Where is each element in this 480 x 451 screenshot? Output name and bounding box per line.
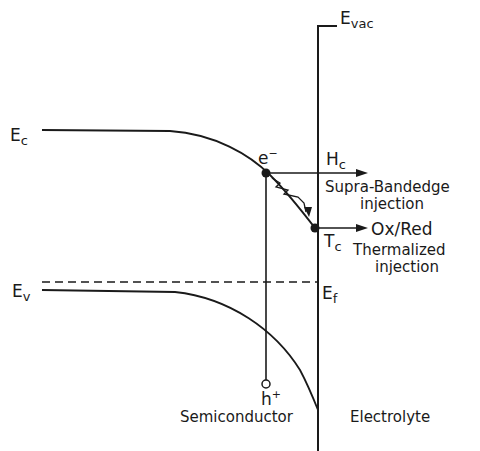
tc-label: Tc (324, 233, 342, 250)
evac-label: Evac (340, 10, 374, 27)
electron-label: e− (258, 150, 278, 167)
ev-label: Ev (12, 283, 30, 300)
hc-label: Hc (326, 151, 346, 168)
thermalized-injection-label: injection (375, 260, 439, 275)
thermalized-label: Thermalized (353, 243, 446, 258)
semiconductor-label: Semiconductor (180, 410, 293, 425)
hole-label: h+ (261, 391, 281, 408)
hole-circle (262, 380, 270, 388)
supra-injection-label: injection (360, 197, 424, 212)
supra-bandedge-label: Supra-Bandedge (325, 180, 450, 195)
ox-red-label: Ox/Red (371, 221, 432, 238)
ef-label: Ef (322, 285, 337, 302)
electrolyte-label: Electrolyte (350, 410, 430, 425)
arrowhead-icon (356, 169, 368, 177)
arrowhead-icon (356, 224, 368, 232)
ec-label: Ec (10, 127, 28, 144)
